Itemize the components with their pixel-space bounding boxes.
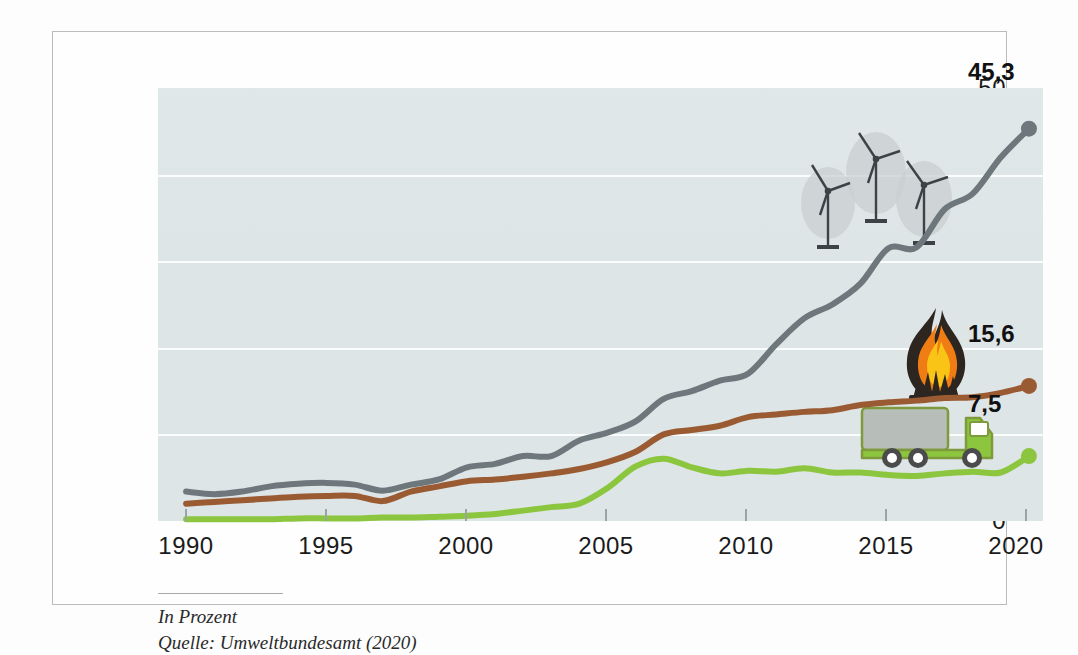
xtick-mark-2010	[745, 509, 747, 521]
xtick-label-2005: 2005	[578, 532, 633, 560]
xtick-mark-2005	[605, 509, 607, 521]
xtick-label-2020: 2020	[988, 532, 1043, 560]
xtick-mark-1995	[325, 509, 327, 521]
footer-unit: In Prozent	[158, 604, 417, 630]
xtick-label-2000: 2000	[438, 532, 493, 560]
plot-area	[158, 88, 1043, 521]
xtick-label-2015: 2015	[858, 532, 913, 560]
xtick-mark-2000	[465, 509, 467, 521]
series-endpoint-verkehr	[1021, 448, 1037, 464]
xtick-mark-1990	[185, 509, 187, 521]
endpoint-label-transport: 7,5	[968, 390, 1001, 418]
xtick-label-2010: 2010	[718, 532, 773, 560]
figure-frame: 50 40 30 20 10 0	[52, 31, 1007, 605]
endpoint-label-heat: 15,6	[968, 320, 1015, 348]
endpoint-label-electricity: 45,3	[968, 58, 1015, 86]
series-line-strom	[186, 129, 1029, 494]
footer-source: Quelle: Umweltbundesamt (2020)	[158, 630, 417, 655]
series-endpoint-strom	[1021, 121, 1037, 137]
xtick-mark-2020	[1025, 509, 1027, 521]
xtick-label-1995: 1995	[298, 532, 353, 560]
xtick-label-1990: 1990	[158, 532, 213, 560]
footer-divider	[158, 593, 283, 594]
footer-note: In Prozent Quelle: Umweltbundesamt (2020…	[158, 604, 417, 655]
series-line-verkehr	[186, 456, 1029, 519]
data-lines	[158, 88, 1043, 521]
series-endpoint-wärme	[1021, 378, 1037, 394]
xtick-mark-2015	[885, 509, 887, 521]
